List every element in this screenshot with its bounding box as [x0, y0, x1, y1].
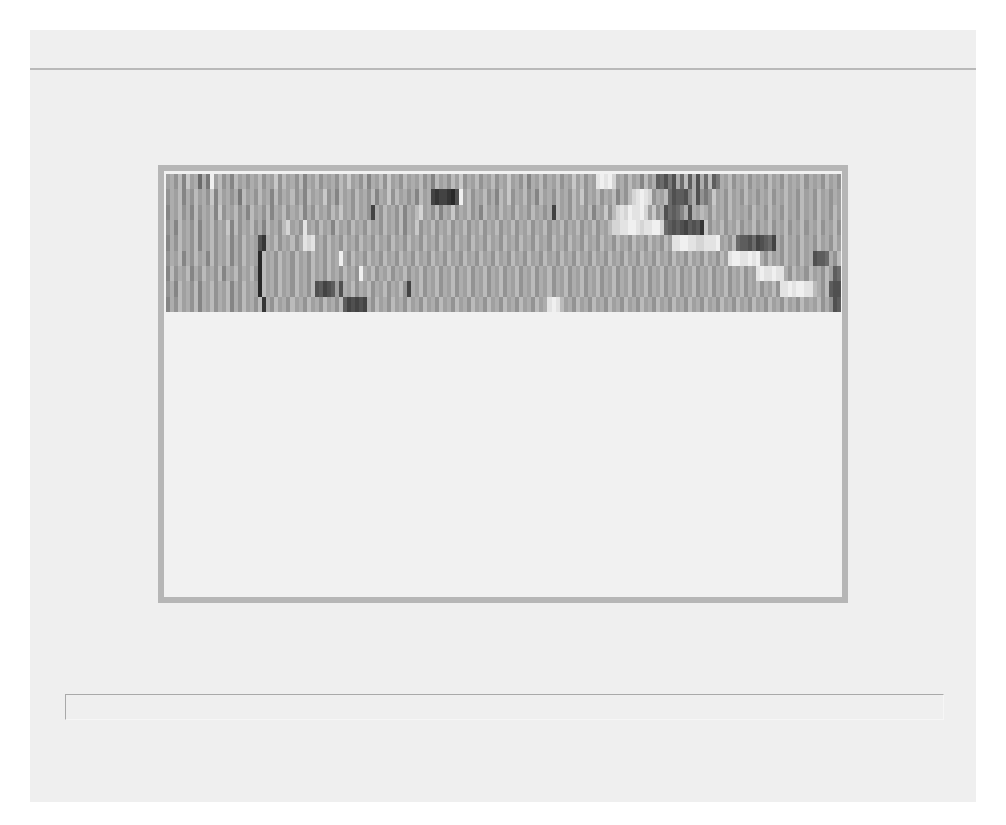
- heatmap-cell: [837, 174, 841, 189]
- heatmap-cell: [837, 220, 841, 235]
- heatmap-row: [166, 220, 840, 235]
- caption-box: [65, 694, 944, 720]
- heatmap-cell: [837, 281, 841, 296]
- heatmap-row: [166, 297, 840, 312]
- heatmap-cell: [837, 297, 841, 312]
- figure-frame: [158, 165, 848, 603]
- heatmap-row: [166, 251, 840, 266]
- heatmap-cell: [837, 235, 841, 250]
- heatmap-cell: [837, 189, 841, 204]
- header-rule: [30, 68, 976, 70]
- heatmap: [166, 174, 840, 312]
- heatmap-row: [166, 281, 840, 296]
- heatmap-row: [166, 174, 840, 189]
- heatmap-row: [166, 235, 840, 250]
- heatmap-cell: [837, 266, 841, 281]
- heatmap-row: [166, 266, 840, 281]
- heatmap-row: [166, 189, 840, 204]
- heatmap-cell: [837, 251, 841, 266]
- heatmap-cell: [837, 205, 841, 220]
- heatmap-row: [166, 205, 840, 220]
